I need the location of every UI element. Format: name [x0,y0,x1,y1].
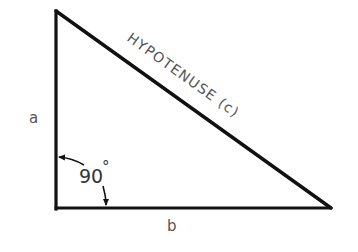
angle-arrow-down-icon [103,186,106,205]
hypotenuse-label: HYPOTENUSE (c) [124,29,242,120]
right-triangle-diagram: a b 90 ° HYPOTENUSE (c) [0,0,358,252]
side-b-label: b [167,217,177,235]
side-a-label: a [29,109,38,127]
angle-label: 90 [79,165,103,187]
degree-symbol: ° [102,158,110,176]
angle-arrow-left-icon [59,157,84,165]
angle-value: 90 [79,165,103,187]
